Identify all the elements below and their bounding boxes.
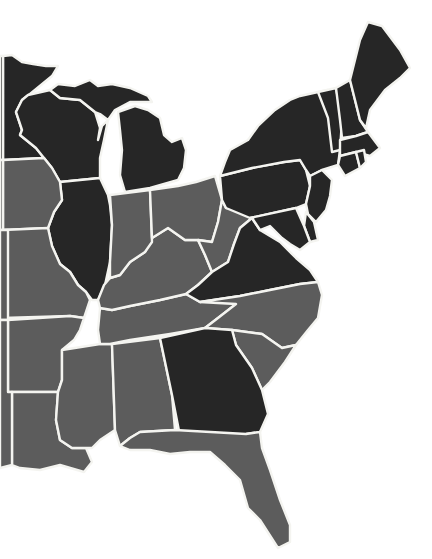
eastern-us-map: MinnesotaWisconsinMichiganMichigan Upper… <box>0 0 432 559</box>
state-w3: Western state (partial) <box>0 230 8 320</box>
state-w1: Western state (partial) <box>0 56 3 160</box>
state-ms: Mississippi <box>56 344 115 448</box>
state-w2: Western state (partial) <box>0 160 3 230</box>
